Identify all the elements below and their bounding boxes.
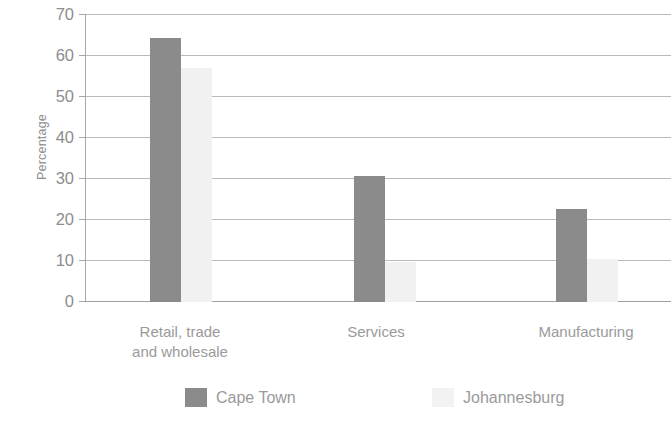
y-axis-tick bbox=[79, 96, 86, 97]
y-axis-tick bbox=[79, 219, 86, 220]
y-tick-label: 20 bbox=[38, 211, 74, 228]
y-axis-tick bbox=[79, 137, 86, 138]
y-axis-tick bbox=[79, 14, 86, 15]
y-tick-label: 10 bbox=[38, 252, 74, 269]
y-axis-tick bbox=[79, 55, 86, 56]
y-tick-label: 50 bbox=[38, 88, 74, 105]
legend-label: Cape Town bbox=[216, 390, 296, 406]
y-axis-tick bbox=[79, 260, 86, 261]
y-axis-tick bbox=[79, 178, 86, 179]
legend-label: Johannesburg bbox=[463, 390, 564, 406]
plot-area bbox=[86, 14, 671, 302]
gridline bbox=[86, 14, 671, 15]
y-axis-tick bbox=[79, 301, 86, 302]
y-tick-label: 30 bbox=[38, 170, 74, 187]
x-axis-category-label: Retail, trade and wholesale bbox=[80, 322, 280, 362]
bar-manufacturing-johannesburg bbox=[587, 259, 618, 302]
chart-legend: Cape Town Johannesburg bbox=[0, 386, 671, 416]
x-axis-category-label: Services bbox=[296, 322, 456, 342]
bar-services-cape-town bbox=[354, 176, 385, 302]
dark-gray-swatch bbox=[185, 388, 207, 407]
bar-chart: Percentage 70 60 50 40 30 20 10 0 R bbox=[0, 0, 671, 424]
y-tick-label: 70 bbox=[38, 6, 74, 23]
legend-item-johannesburg: Johannesburg bbox=[432, 388, 564, 407]
x-axis-category-label: Manufacturing bbox=[501, 322, 671, 342]
bar-services-johannesburg bbox=[385, 262, 416, 302]
y-tick-label: 0 bbox=[38, 293, 74, 310]
light-gray-swatch bbox=[432, 388, 454, 407]
bar-retail-cape-town bbox=[150, 38, 181, 302]
bar-retail-johannesburg bbox=[181, 68, 212, 302]
y-tick-label: 40 bbox=[38, 129, 74, 146]
y-axis-tick-labels: 70 60 50 40 30 20 10 0 bbox=[28, 0, 74, 320]
y-tick-label: 60 bbox=[38, 47, 74, 64]
bar-manufacturing-cape-town bbox=[556, 209, 587, 302]
legend-item-cape-town: Cape Town bbox=[185, 388, 296, 407]
